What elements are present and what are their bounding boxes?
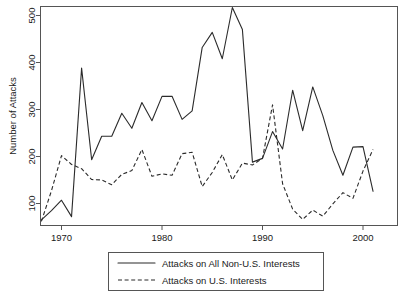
y-axis-tick-labels: 500 400 300 200 100 <box>26 8 37 212</box>
x-tick-label: 1980 <box>151 232 172 243</box>
x-axis-ticks <box>62 226 364 231</box>
y-tick-label: 100 <box>26 196 37 212</box>
y-tick-label: 400 <box>26 55 37 71</box>
x-tick-label: 1970 <box>51 232 72 243</box>
series-line-us-interests <box>41 105 373 222</box>
chart-figure: 500 400 300 200 100 Number of Attacks 19… <box>0 0 411 295</box>
y-tick-label: 300 <box>26 102 37 118</box>
x-tick-label: 1990 <box>252 232 273 243</box>
y-axis-title: Number of Attacks <box>7 77 18 155</box>
line-chart: 500 400 300 200 100 Number of Attacks 19… <box>0 0 411 295</box>
legend-label-us-interests: Attacks on U.S. Interests <box>162 275 267 286</box>
legend-label-non-us-interests: Attacks on All Non-U.S. Interests <box>162 258 300 269</box>
x-axis-tick-labels: 1970 1980 1990 2000 <box>51 232 374 243</box>
x-tick-label: 2000 <box>352 232 373 243</box>
y-tick-label: 500 <box>26 8 37 24</box>
y-axis-ticks <box>36 16 41 204</box>
chart-legend: Attacks on All Non-U.S. Interests Attack… <box>109 253 324 291</box>
y-tick-label: 200 <box>26 149 37 165</box>
series-line-non-us-interests <box>41 8 373 220</box>
